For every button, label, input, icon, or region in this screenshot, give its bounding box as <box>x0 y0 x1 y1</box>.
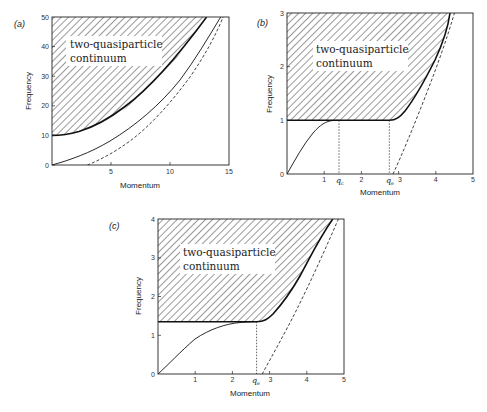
x-tick-label: 1 <box>193 376 197 383</box>
x-tick-label: 5 <box>342 376 346 383</box>
x-tick-label: 3 <box>269 376 273 383</box>
svg-text:e: e <box>257 380 260 386</box>
y-tick-label: 3 <box>151 254 155 261</box>
x-tick-label: 2 <box>359 176 363 183</box>
y-tick-label: 1 <box>280 117 284 124</box>
continuum-region-a <box>52 17 207 135</box>
x-axis-label: Momentum <box>360 188 400 197</box>
qe-tick-label: q e <box>252 376 260 386</box>
continuum-label-line1: two-quasiparticle <box>70 38 163 50</box>
x-tick-label: 15 <box>225 168 233 175</box>
figure: 0 10 20 30 40 50 5 10 15 two-quasipartic… <box>0 0 487 412</box>
panel-label: (c) <box>109 221 120 231</box>
x-ticks-a: 5 10 15 <box>109 162 233 175</box>
continuum-label-line2: continuum <box>70 52 127 64</box>
continuum-label-line1: two-quasiparticle <box>316 43 409 55</box>
panel-label: (b) <box>257 18 268 28</box>
y-tick-label: 50 <box>41 14 49 21</box>
y-axis-label: Frequency <box>134 277 143 315</box>
y-tick-label: 0 <box>45 162 49 169</box>
y-tick-label: 4 <box>151 216 155 223</box>
x-tick-label: 5 <box>471 176 475 183</box>
y-tick-label: 0 <box>280 171 284 178</box>
y-tick-label: 0 <box>151 371 155 378</box>
qe-tick-label: q e <box>386 176 394 186</box>
x-tick-label: 2 <box>230 376 234 383</box>
x-tick-label: 1 <box>322 176 326 183</box>
y-axis-label: Frequency <box>24 72 33 110</box>
continuum-label-line2: continuum <box>183 260 240 272</box>
quasiparticle-branch-c <box>158 322 257 374</box>
y-tick-label: 3 <box>280 10 284 17</box>
x-ticks-c: 1 2 3 4 5 q e <box>193 371 346 386</box>
continuum-label-line2: continuum <box>316 57 373 69</box>
qc-tick-label: q c <box>336 176 344 186</box>
panel-b: 0 1 2 3 1 2 3 4 5 q c q e two-quasiparti… <box>257 10 475 198</box>
x-tick-label: 4 <box>434 176 438 183</box>
y-tick-label: 20 <box>41 102 49 109</box>
panel-c: 0 1 2 3 4 1 2 3 4 5 q e two-quasiparticl… <box>109 216 346 399</box>
y-tick-label: 2 <box>280 63 284 70</box>
y-tick-label: 1 <box>151 332 155 339</box>
y-tick-label: 40 <box>41 43 49 50</box>
svg-text:c: c <box>341 180 344 186</box>
x-tick-label: 4 <box>305 376 309 383</box>
x-tick-label: 10 <box>166 168 174 175</box>
svg-text:e: e <box>391 180 394 186</box>
y-tick-label: 2 <box>151 293 155 300</box>
panel-a: 0 10 20 30 40 50 5 10 15 two-quasipartic… <box>14 14 233 191</box>
continuum-label-line1: two-quasiparticle <box>183 246 276 258</box>
x-tick-label: 3 <box>398 176 402 183</box>
quasiparticle-branch-b <box>287 120 339 174</box>
y-tick-label: 10 <box>41 132 49 139</box>
x-axis-label: Momentum <box>120 181 160 190</box>
y-tick-label: 30 <box>41 73 49 80</box>
x-ticks-b: 1 2 3 4 5 q c q e <box>322 171 475 186</box>
panel-label: (a) <box>14 19 25 29</box>
x-axis-label: Momentum <box>230 389 270 398</box>
y-axis-label: Frequency <box>265 75 274 113</box>
x-tick-label: 5 <box>109 168 113 175</box>
